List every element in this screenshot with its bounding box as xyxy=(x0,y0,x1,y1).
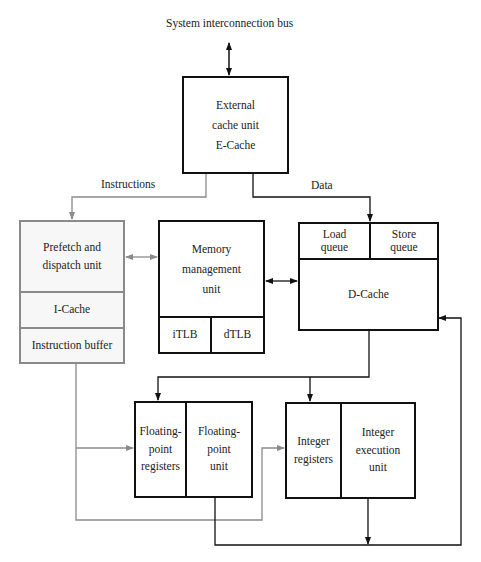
prefetch-dispatch-block: Prefetch and dispatch unit I-Cache Instr… xyxy=(19,220,125,364)
instructions-label: Instructions xyxy=(101,178,155,190)
system-bus-label: System interconnection bus xyxy=(166,17,293,29)
floating-point-block: Floating- point registers Floating- poin… xyxy=(134,401,253,498)
floating-point-unit: Floating- point unit xyxy=(187,403,251,496)
d-cache-block: Load queue Store queue D-Cache xyxy=(298,222,439,331)
data-label: Data xyxy=(311,179,333,191)
integer-registers: Integer registers xyxy=(287,404,342,497)
integer-execution-unit: Integer execution unit xyxy=(342,404,414,497)
instruction-buffer: Instruction buffer xyxy=(21,329,123,362)
d-cache: D-Cache xyxy=(300,260,437,329)
mmu-label: Memory management unit xyxy=(160,222,263,318)
itlb: iTLB xyxy=(160,318,212,352)
store-queue: Store queue xyxy=(371,224,437,260)
load-queue: Load queue xyxy=(300,224,371,260)
memory-management-unit: Memory management unit iTLB dTLB xyxy=(158,220,265,354)
external-cache-unit: External cache unit E-Cache xyxy=(182,76,289,174)
external-cache-label: External cache unit E-Cache xyxy=(184,78,287,172)
i-cache: I-Cache xyxy=(21,293,123,329)
floating-point-registers: Floating- point registers xyxy=(136,403,187,496)
prefetch-dispatch-unit: Prefetch and dispatch unit xyxy=(21,222,123,293)
integer-block: Integer registers Integer execution unit xyxy=(285,402,416,499)
dtlb: dTLB xyxy=(212,318,263,352)
